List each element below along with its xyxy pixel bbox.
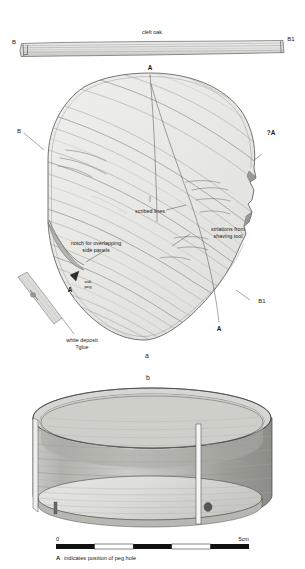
box-peg-hole-dot	[204, 503, 212, 512]
annotation-notch-line1: notch for overlapping	[71, 240, 121, 246]
annotation-oak-peg-line2: peg	[84, 284, 92, 289]
annotation-notch-line2: side panels	[82, 247, 110, 253]
disc-edge-label-b: B	[17, 128, 21, 134]
disc-marker-a-peg: A	[68, 286, 73, 293]
leader-b-edge	[24, 133, 44, 150]
box-reconstruction-view: b	[33, 374, 272, 527]
scale-segment-3	[133, 544, 172, 549]
annotation-striations-line2: shaving tool	[214, 233, 243, 239]
box-base-disc	[38, 476, 262, 520]
leader-b1-edge	[236, 290, 250, 300]
disc-edge-label-b1: B1	[258, 298, 266, 304]
disc-marker-a-bottom: A	[217, 325, 222, 332]
section-end-label-b1: B1	[287, 36, 295, 42]
illustration-canvas: cleft oak B B1	[0, 0, 305, 569]
scale-bar-segments	[56, 544, 249, 549]
cleft-oak-material-label: cleft oak	[142, 29, 162, 35]
figure-label-a: a	[145, 352, 149, 359]
scale-segment-2	[95, 544, 134, 549]
leader-white-deposit	[62, 318, 74, 334]
annotation-white-deposit-line1: white deposit	[65, 337, 98, 343]
detached-oak-peg-object	[18, 272, 62, 324]
scale-segment-1	[56, 544, 95, 549]
annotation-white-deposit-line2: ?glue	[75, 344, 88, 350]
figure-caption-group: A indicates position of peg hole	[56, 555, 136, 561]
scale-label-end: 5cm	[238, 536, 249, 542]
box-left-wall-edge	[33, 418, 38, 512]
leader-query-a	[254, 154, 262, 160]
scale-segment-4	[172, 544, 211, 549]
annotation-striations-line1: striations from	[211, 226, 245, 232]
cleft-oak-section-view: cleft oak B B1	[12, 29, 295, 57]
caption-marker: A	[56, 555, 61, 561]
base-disc-plan-view: A ?A B B1 scribed lines striations from …	[17, 64, 276, 359]
box-side-panel-seam	[196, 424, 201, 524]
disc-marker-a-top: A	[148, 64, 153, 71]
annotation-scribed-lines: scribed lines	[135, 208, 165, 214]
caption-text: indicates position of peg hole	[64, 555, 136, 561]
scale-segment-5	[210, 544, 249, 549]
box-peg-slot-left	[54, 502, 57, 514]
scale-label-start: 0	[56, 536, 59, 542]
section-end-label-b: B	[12, 39, 16, 45]
archaeological-figure-plate: cleft oak B B1	[0, 0, 305, 569]
scale-bar-group: 0 5cm	[56, 536, 249, 549]
disc-marker-query-a: ?A	[267, 129, 276, 136]
figure-label-b: b	[146, 374, 150, 381]
